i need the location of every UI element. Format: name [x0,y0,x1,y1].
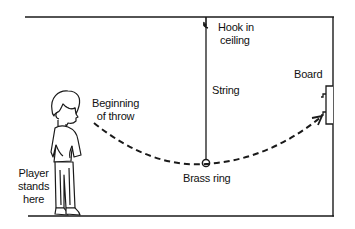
brass-ring-label: Brass ring [183,172,231,185]
beginning-label-line-1: Beginning [92,97,139,110]
player-figure [51,91,81,215]
hook-label-line-1: Hook in [218,21,254,34]
hook-label-line-2: ceiling [218,34,254,47]
player-label-line-1: Player [18,167,49,180]
hook-label: Hook in ceiling [218,21,254,47]
beginning-of-throw-label: Beginning of throw [92,97,139,123]
player-label: Player stands here [17,167,50,206]
string-label: String [212,84,240,97]
board-icon [321,86,333,124]
player-label-line-2: stands [18,180,49,193]
beginning-label-line-2: of throw [92,110,139,123]
board-label: Board [294,68,322,81]
diagram-drawing [0,0,355,229]
diagram-canvas: Hook in ceiling String Board Beginning o… [0,0,355,229]
player-label-line-3: here [18,193,49,206]
throw-path [94,117,321,164]
